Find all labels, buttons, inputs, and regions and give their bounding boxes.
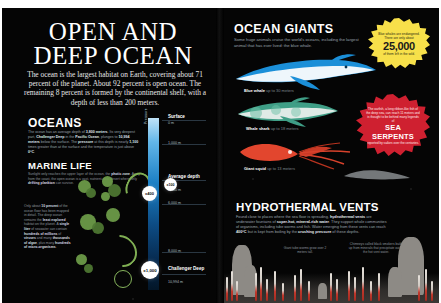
page-gutter [216,8,224,303]
pressure-marker-100: x100 [164,178,177,191]
scale-tick-sub-1: 1,000 m [168,141,181,145]
scale-tick-sub-3: 6,000 m [168,201,181,205]
pressure-axis-label: Pressure [144,108,148,124]
badge-caption-top: Blue whales are endangered. There are on… [376,32,422,40]
hydrothermal-vents-body: Found close to places where the sea floo… [236,215,388,235]
ocean-giants-heading: OCEAN GIANTS [234,22,333,36]
vents-note-left: Giant tube worms grow over 2 meters tall… [280,246,330,254]
badge-number: 25,000 [376,40,422,52]
scale-tick-label-0: Surface [168,114,185,119]
scale-tick-label-5: Challenger Deep [168,266,208,271]
species-label-blue-whale: Blue whale up to 30 meters [244,88,294,93]
sea-serpents-caption-top: The oarfish, a long ribbon-like fish of … [366,107,421,123]
scale-tick-sub-0: 0 m [168,121,174,125]
sea-serpents-title: SEA SERPENTS [366,123,421,141]
ocean-giants-body: Some huge animals cruise the world’s oce… [234,37,364,48]
oceans-body: The ocean has an average depth of 3,800 … [28,130,141,155]
scale-tick-sub-5: 10,994 m [168,280,183,284]
badge-caption-bottom: of them left in the wild. [376,52,422,56]
intro-paragraph: The ocean is the largest habitat on Eart… [22,70,208,107]
right-page: OCEAN GIANTS Some huge animals cruise th… [222,8,439,303]
marine-life-body-secondary: Only about 10 percent of the ocean floor… [24,204,72,250]
pressure-marker-400: x400 [142,186,157,201]
oceans-heading: OCEANS [28,116,82,130]
sea-serpents-caption-bottom: reported by sailors over the centuries. [366,141,421,145]
vents-note-right: Chimneys called black smokers build up f… [348,242,404,255]
left-page: OPEN AND DEEP OCEAN The ocean is the lar… [2,8,218,303]
species-label-giant-squid: Giant squid up to 13 meters [244,166,295,171]
sea-serpents-badge: The oarfish, a long ribbon-like fish of … [356,94,430,158]
whale-shark-illustration [232,94,342,128]
giant-squid-illustration [236,134,354,170]
page-title: OPEN AND DEEP OCEAN [18,20,208,68]
hydrothermal-vents-heading: HYDROTHERMAL VENTS [236,201,379,213]
pressure-marker-1000: x1,000 [141,261,159,279]
species-label-whale-shark: Whale shark up to 18 meters [246,126,299,131]
oarfish-illustration [342,164,412,184]
marine-life-heading: MARINE LIFE [28,160,92,171]
scale-tick-sub-4: 8,000 m [168,249,181,253]
magazine-spread: OPEN AND DEEP OCEAN The ocean is the lar… [0,0,441,303]
